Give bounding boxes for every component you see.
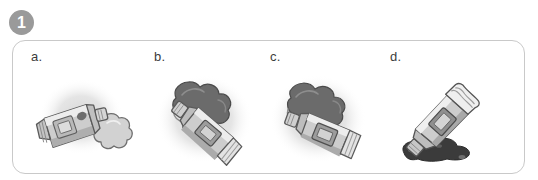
option-label-c: c.: [270, 49, 281, 64]
answer-options-panel: a.: [12, 40, 525, 174]
illustration-a: [23, 67, 143, 172]
answer-option-a[interactable]: a.: [23, 41, 143, 175]
answer-option-c[interactable]: c.: [262, 41, 382, 175]
option-label-b: b.: [154, 49, 165, 64]
answer-option-d[interactable]: d.: [382, 41, 502, 175]
illustration-b: [146, 67, 266, 172]
illustration-c: [262, 67, 382, 172]
option-label-a: a.: [31, 49, 42, 64]
question-number-badge: 1: [9, 10, 34, 35]
option-label-d: d.: [390, 49, 401, 64]
illustration-d: [382, 67, 502, 172]
answer-option-b[interactable]: b.: [146, 41, 266, 175]
